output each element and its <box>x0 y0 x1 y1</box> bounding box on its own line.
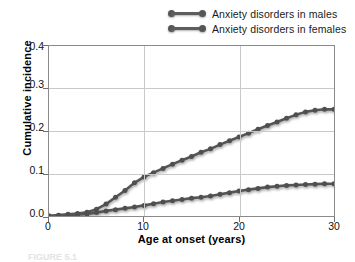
legend-item-females: Anxiety disorders in females <box>168 21 353 36</box>
chart-legend: Anxiety disorders in males Anxiety disor… <box>168 6 353 36</box>
figure-caption: FIGURE 5.1 <box>28 252 328 261</box>
legend-marker-males-icon <box>168 8 206 19</box>
x-tick-mark-10 <box>143 217 144 222</box>
gridline-x-20 <box>240 46 241 216</box>
legend-marker-females-icon <box>168 23 206 34</box>
legend-item-males: Anxiety disorders in males <box>168 6 353 21</box>
x-tick-mark-30 <box>334 217 335 222</box>
gridline-y-0.3 <box>49 88 334 89</box>
plot-area <box>48 45 335 217</box>
gridline-y-0.2 <box>49 131 334 132</box>
y-axis-title: Cumulative incidence <box>21 23 33 173</box>
figure-container: Anxiety disorders in males Anxiety disor… <box>0 0 355 262</box>
gridline-y-0.1 <box>49 174 334 175</box>
x-tick-mark-20 <box>239 217 240 222</box>
legend-label-females: Anxiety disorders in females <box>212 23 346 35</box>
y-tick-label-0.0: 0.0 <box>14 207 44 219</box>
gridline-x-10 <box>144 46 145 216</box>
x-axis-title: Age at onset (years) <box>48 233 335 245</box>
x-tick-mark-0 <box>48 217 49 222</box>
legend-label-males: Anxiety disorders in males <box>212 8 337 20</box>
